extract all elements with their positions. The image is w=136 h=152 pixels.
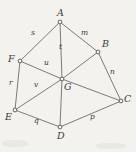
- edge-label-p: p: [90, 113, 95, 121]
- vertex-node-b: [96, 50, 100, 54]
- graph-edge-ef: [15, 61, 20, 110]
- edge-label-m: m: [81, 29, 88, 37]
- edge-label-s: s: [31, 29, 35, 37]
- graph-edge-fa: [20, 22, 60, 61]
- edge-label-v: v: [34, 81, 38, 89]
- vertex-label-f: F: [8, 54, 15, 64]
- edge-label-n: n: [110, 68, 115, 76]
- graph-edge-gb: [62, 52, 98, 79]
- edge-label-t: t: [59, 43, 62, 51]
- graph-canvas: [0, 0, 136, 152]
- graph-edge-eg: [15, 79, 62, 110]
- vertex-label-g: G: [64, 82, 72, 92]
- edge-label-q: q: [34, 117, 39, 125]
- graph-edge-gd: [60, 79, 62, 127]
- graph-edge-ab: [60, 22, 98, 52]
- edge-label-u: u: [44, 59, 49, 67]
- vertex-node-f: [18, 59, 22, 63]
- graph-edge-fg: [20, 61, 62, 79]
- graph-figure: ABCDEFG smnpqrtuv: [0, 0, 136, 152]
- vertex-label-b: B: [102, 39, 109, 49]
- vertex-label-d: D: [57, 131, 65, 141]
- vertex-label-e: E: [5, 112, 12, 122]
- vertex-label-a: A: [57, 8, 64, 18]
- vertex-node-a: [58, 20, 62, 24]
- vertex-label-c: C: [124, 94, 131, 104]
- vertex-node-d: [58, 125, 62, 129]
- vertex-node-c: [119, 99, 123, 103]
- edge-label-r: r: [9, 79, 13, 87]
- vertex-node-e: [13, 108, 17, 112]
